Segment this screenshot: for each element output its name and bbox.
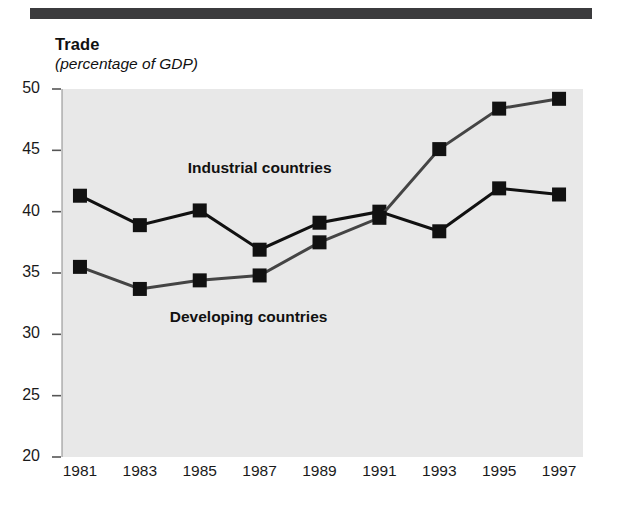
x-axis-tick-label: 1985 (170, 462, 230, 480)
x-axis-tick-label: 1987 (230, 462, 290, 480)
y-axis-tick-label: 40 (10, 202, 40, 220)
top-rule-divider (30, 8, 592, 19)
plot-area (62, 89, 583, 457)
x-axis-tick-label: 1983 (110, 462, 170, 480)
page-title: Trade (55, 35, 198, 53)
y-axis-tick-label: 45 (10, 140, 40, 158)
figure: Trade (percentage of GDP) 50454035302520… (0, 0, 617, 520)
y-axis-tick-label: 50 (10, 79, 40, 97)
series-annotation-label: Developing countries (170, 308, 328, 326)
y-axis-tick-label: 25 (10, 386, 40, 404)
x-axis-tick-label: 1991 (349, 462, 409, 480)
y-axis-tick-label: 35 (10, 263, 40, 281)
chart-heading: Trade (percentage of GDP) (55, 35, 198, 73)
x-axis-tick-label: 1993 (409, 462, 469, 480)
y-axis-tick-label: 30 (10, 324, 40, 342)
x-axis-tick-label: 1995 (469, 462, 529, 480)
y-axis-tick-label: 20 (10, 447, 40, 465)
x-axis-tick-label: 1997 (529, 462, 589, 480)
series-annotation-label: Industrial countries (188, 159, 332, 177)
x-axis-tick-label: 1989 (290, 462, 350, 480)
chart-subtitle: (percentage of GDP) (55, 55, 198, 72)
x-axis-tick-label: 1981 (50, 462, 110, 480)
